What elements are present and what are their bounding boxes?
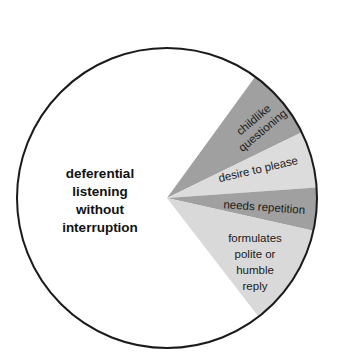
label-line: humble bbox=[236, 264, 274, 276]
label-line: formulates bbox=[228, 232, 282, 244]
label-line: polite or bbox=[235, 248, 276, 260]
pie-slices bbox=[17, 48, 317, 348]
label-line: deferential bbox=[66, 166, 134, 181]
label-line: without bbox=[75, 202, 124, 217]
label-line: interruption bbox=[62, 220, 138, 235]
label-line: reply bbox=[243, 280, 268, 292]
pie-chart: deferential listening without interrupti… bbox=[0, 0, 344, 360]
label-line: listening bbox=[72, 184, 128, 199]
